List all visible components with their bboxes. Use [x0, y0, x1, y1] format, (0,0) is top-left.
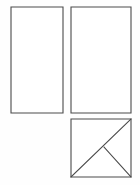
shape-square-tangram[interactable]: [71, 119, 131, 177]
shape-rect-right[interactable]: [71, 7, 131, 113]
shapes-svg: [0, 0, 140, 185]
rect-right-fill: [71, 7, 131, 113]
shape-rect-left[interactable]: [11, 7, 63, 113]
rect-left-fill: [11, 7, 63, 113]
diagram-canvas: [0, 0, 140, 185]
